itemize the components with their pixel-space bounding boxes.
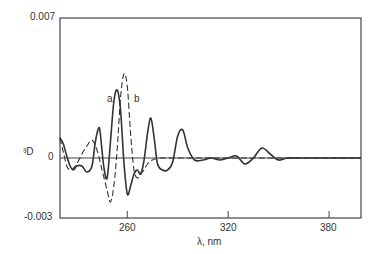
y-tick-top: 0.007 (30, 11, 55, 22)
series-group (60, 74, 361, 203)
x-axis-label: λ, nm (197, 236, 221, 247)
series-b-line (60, 74, 361, 203)
series-b-label: b (134, 93, 140, 104)
series-a-label: a (107, 93, 113, 104)
x-tick-260: 260 (119, 222, 136, 233)
y-tick-zero: 0 (48, 151, 54, 162)
series-a-line (60, 90, 361, 195)
plot-frame (60, 18, 361, 218)
y-axis-label: ³D (23, 146, 34, 157)
chart-canvas (0, 0, 380, 254)
x-tick-380: 380 (320, 222, 337, 233)
y-tick-bottom: -0.003 (24, 211, 52, 222)
plot-border (60, 18, 361, 218)
x-tick-320: 320 (220, 222, 237, 233)
